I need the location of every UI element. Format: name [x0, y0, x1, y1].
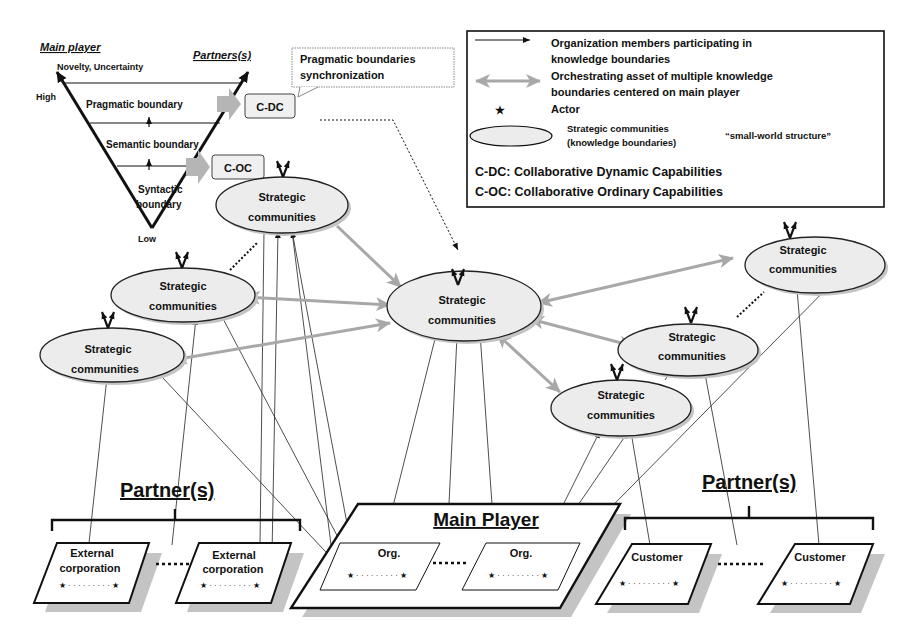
actors-row: ★ · · · · · · · · · ★: [347, 571, 407, 580]
ellipse-legend-icon: [470, 126, 552, 146]
svg-text:communities: communities: [71, 363, 139, 375]
actors-row: ★ · · · · · · · · · ★: [59, 581, 119, 590]
svg-text:Orchestrating asset of multipl: Orchestrating asset of multiple knowledg…: [551, 70, 773, 82]
actors-row: ★ · · · · · · · · · ★: [619, 579, 679, 588]
svg-text:C-DC: C-DC: [256, 101, 284, 113]
actors-row: ★ · · · · · · · · · ★: [781, 579, 841, 588]
svg-text:communities: communities: [428, 314, 496, 326]
svg-text:C-OC: C-OC: [224, 162, 252, 174]
customer-2: Customer ★ · · · · · · · · · ★: [758, 544, 885, 613]
svg-text:External: External: [70, 547, 113, 559]
partners-right-label: Partner(s): [702, 471, 796, 493]
svg-text:communities: communities: [248, 211, 316, 223]
svg-text:“small-world structure”: “small-world structure”: [725, 130, 831, 141]
community-ellipse-central: Strategic communities: [387, 271, 544, 344]
community-ellipse: Strategic communities: [40, 328, 187, 385]
svg-text:corporation: corporation: [59, 562, 120, 574]
svg-text:Customer: Customer: [631, 551, 683, 563]
svg-text:communities: communities: [149, 300, 217, 312]
svg-text:Actor: Actor: [551, 103, 580, 115]
partners-left-label: Partner(s): [120, 479, 214, 501]
star-icon: ★: [495, 104, 505, 116]
community-ellipse: Strategic communities: [618, 324, 761, 379]
actors-row: ★ · · · · · · · · · ★: [200, 581, 260, 590]
svg-text:Org.: Org.: [378, 547, 401, 559]
external-corporation-2: External corporation ★ · · · · · · · · ·…: [176, 543, 304, 612]
partners-left-bracket: [52, 509, 300, 531]
svg-text:C-OC: Collaborative Ordinary C: C-OC: Collaborative Ordinary Capabilitie…: [475, 185, 723, 199]
svg-text:External: External: [212, 549, 255, 561]
legend-arrow-label-1: Organization members participating in: [551, 37, 752, 49]
svg-text:communities: communities: [587, 409, 655, 421]
high-label: High: [36, 92, 56, 102]
community-ellipse: Strategic communities: [216, 177, 351, 236]
syntactic-boundary-label-1: Syntactic: [138, 184, 183, 195]
knowledge-boundary-diagram: Main player Partners(s) Novelty, Uncerta…: [0, 0, 914, 642]
svg-text:communities: communities: [769, 263, 837, 275]
actors-row: ★ · · · · · · · · · ★: [488, 571, 548, 580]
svg-text:synchronization: synchronization: [300, 69, 385, 81]
svg-text:(knowledge boundaries): (knowledge boundaries): [567, 137, 676, 148]
dotted-connector: [737, 292, 764, 317]
novelty-uncertainty-label: Novelty, Uncertainty: [57, 62, 143, 72]
community-ellipse: Strategic communities: [745, 237, 888, 296]
community-ellipse: Strategic communities: [551, 380, 694, 439]
coc-box: C-OC: [212, 155, 264, 179]
main-player-title: Main Player: [433, 509, 539, 530]
pragmatic-boundary-label: Pragmatic boundary: [86, 99, 183, 110]
partners-right-bracket: [625, 506, 873, 530]
svg-text:Strategic: Strategic: [779, 244, 826, 256]
svg-text:Strategic: Strategic: [597, 389, 644, 401]
svg-text:Strategic communities: Strategic communities: [567, 123, 669, 134]
external-corporation-1: External corporation ★ · · · · · · · · ·…: [34, 543, 162, 612]
svg-text:Strategic: Strategic: [159, 280, 206, 292]
svg-text:C-DC: Collaborative Dynamic Ca: C-DC: Collaborative Dynamic Capabilities: [475, 165, 722, 179]
svg-text:Customer: Customer: [794, 551, 846, 563]
cdc-box: C-DC: [245, 94, 295, 118]
svg-text:Pragmatic boundaries: Pragmatic boundaries: [300, 53, 416, 65]
svg-text:Strategic: Strategic: [438, 294, 485, 306]
customer-1: Customer ★ · · · · · · · · · ★: [596, 544, 722, 613]
partners-label: Partners(s): [193, 49, 251, 61]
svg-text:boundaries centered on main pl: boundaries centered on main player: [551, 86, 741, 98]
pragmatic-sync-callout: Pragmatic boundaries synchronization: [292, 48, 454, 97]
dotted-connector: [230, 243, 257, 270]
svg-text:Org.: Org.: [510, 547, 533, 559]
syntactic-boundary-label-2: boundary: [136, 199, 182, 210]
block-arrow-icon: [186, 150, 210, 184]
legend-arrow-label-2: knowledge boundaries: [551, 53, 670, 65]
legend-box: Organization members participating in kn…: [467, 31, 884, 207]
svg-text:Strategic: Strategic: [84, 343, 131, 355]
svg-text:Strategic: Strategic: [668, 331, 715, 343]
low-label: Low: [138, 234, 157, 244]
svg-text:Strategic: Strategic: [258, 191, 305, 203]
svg-text:corporation: corporation: [202, 563, 263, 575]
community-ellipse: Strategic communities: [111, 268, 258, 325]
semantic-boundary-label: Semantic boundary: [106, 139, 199, 150]
main-player-label: Main player: [40, 41, 101, 53]
svg-text:communities: communities: [658, 350, 726, 362]
